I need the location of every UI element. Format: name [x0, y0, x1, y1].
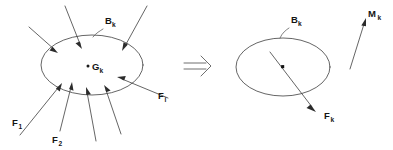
mechanics-force-reduction-diagram: B k G k F 1 F 2 F i	[0, 0, 393, 150]
right-diagram-group: B k F k M k	[236, 8, 382, 123]
force-arrow-left-f1	[20, 83, 62, 135]
resultant-force-arrow-fk	[270, 52, 316, 112]
moment-arrow-mk	[350, 18, 366, 69]
left-label-fi: F i	[158, 90, 167, 103]
left-label-bk-base: B	[105, 15, 112, 26]
right-centroid-square	[281, 65, 284, 68]
left-label-f2-base: F	[52, 134, 58, 145]
left-label-f2-sub: 2	[59, 140, 63, 147]
right-label-mk: M k	[368, 8, 382, 21]
right-label-bk-sub: k	[298, 20, 302, 27]
right-label-fk-sub: k	[331, 116, 335, 123]
force-arrow-upper-left	[29, 27, 58, 53]
left-label-fi-base: F	[158, 90, 164, 101]
left-label-f1-sub: 1	[19, 123, 23, 130]
left-label-bk: B k	[105, 15, 116, 28]
implies-arrow-icon	[184, 56, 211, 76]
left-label-bk-sub: k	[112, 21, 116, 28]
right-label-bk-base: B	[291, 14, 298, 25]
right-label-bk: B k	[291, 14, 302, 27]
right-label-fk: F k	[324, 110, 335, 123]
force-arrow-top-left	[65, 6, 82, 49]
right-label-mk-base: M	[368, 8, 376, 19]
left-label-gk-sub: k	[100, 67, 104, 74]
left-label-fi-sub: i	[165, 96, 167, 103]
right-body-leader-line	[280, 28, 289, 38]
left-label-gk: G k	[92, 61, 104, 74]
left-diagram-group: B k G k F 1 F 2 F i	[12, 6, 168, 147]
right-label-mk-sub: k	[378, 14, 382, 21]
left-label-f1-base: F	[12, 117, 18, 128]
left-label-f1: F 1	[12, 117, 23, 130]
force-arrow-top-right	[122, 6, 147, 51]
left-label-f2: F 2	[52, 134, 63, 147]
left-label-gk-base: G	[92, 61, 99, 72]
figure-root: B k G k F 1 F 2 F i	[0, 0, 393, 150]
left-centroid-dot	[87, 65, 90, 68]
right-label-fk-base: F	[324, 110, 330, 121]
